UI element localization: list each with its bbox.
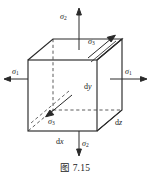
cube-visible-edges — [28, 39, 122, 131]
sigma2-bottom-arrow — [77, 131, 82, 156]
dz-label: dz — [115, 119, 122, 127]
sigma2-top-label: σ2 — [60, 13, 67, 21]
cube-hidden-edges — [28, 39, 122, 131]
figure-container: σ2 σ2 σ1 σ1 σ3 σ3 dy dz dx 图 7.15 — [0, 0, 150, 181]
sigma1-right-arrow — [110, 77, 147, 82]
sigma1-right-label: σ1 — [125, 68, 132, 76]
cube-stress-diagram — [0, 0, 150, 181]
sigma3-lower-arrow — [46, 95, 72, 117]
sigma2-top-arrow — [77, 8, 82, 50]
sigma3-upper-label: σ3 — [88, 38, 95, 46]
dx-label: dx — [56, 138, 64, 146]
sigma1-left-arrow — [4, 77, 28, 82]
dy-label: dy — [84, 83, 92, 91]
sigma3-lower-label: σ3 — [48, 118, 55, 126]
figure-caption: 图 7.15 — [0, 160, 150, 174]
sigma1-left-label: σ1 — [12, 68, 19, 76]
sigma2-bottom-label: σ2 — [82, 140, 89, 148]
